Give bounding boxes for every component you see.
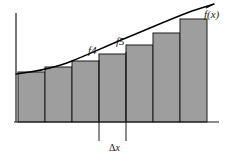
delta-x-variable: x [115, 142, 119, 153]
delta-x-label: Δx [109, 143, 120, 153]
curve-label-fx: f(x) [204, 9, 219, 20]
bar-1 [18, 72, 45, 122]
bar-group [18, 19, 207, 122]
bar-7 [180, 19, 207, 122]
bar-2 [45, 67, 72, 122]
bar-label-f4: f4 [88, 45, 97, 56]
bar-4 [99, 54, 126, 122]
riemann-sum-plot [0, 0, 247, 163]
bar-6 [153, 33, 180, 122]
riemann-sum-figure: f(x) f4 f5 Δx [0, 0, 247, 163]
bar-3 [72, 61, 99, 122]
bar-label-f5: f5 [116, 36, 125, 47]
bar-5 [126, 45, 153, 122]
